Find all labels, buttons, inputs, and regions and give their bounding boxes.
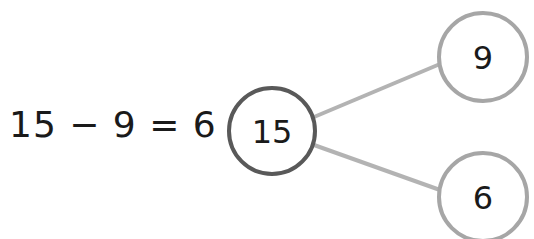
connector-line-bottom [314,145,440,190]
connector-line-top [314,64,440,117]
part-node-top-label: 9 [473,39,493,77]
whole-node: 15 [229,88,315,174]
whole-node-label: 15 [252,113,293,151]
part-node-bottom-label: 6 [473,179,493,217]
part-node-bottom: 6 [439,153,527,239]
number-bond-diagram: 15 9 6 [0,0,534,239]
part-node-top: 9 [439,13,527,101]
